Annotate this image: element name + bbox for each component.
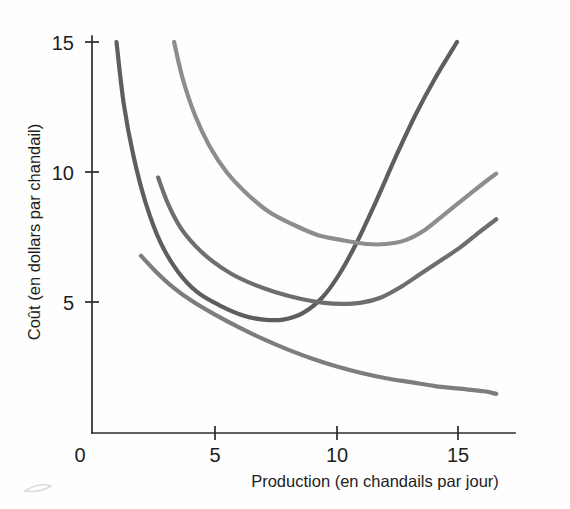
curves-layer <box>117 42 497 394</box>
x-tick-label-10: 10 <box>326 444 348 466</box>
y-axis-title: Coût (en dollars par chandail) <box>25 124 43 340</box>
curve-average-total-cost <box>174 42 496 245</box>
chart-canvas: 15 10 5 0 5 10 15 Production (en chandai… <box>0 0 570 509</box>
y-tick-label-15: 15 <box>52 32 74 54</box>
y-axis-tick-labels: 15 10 5 <box>52 32 74 314</box>
curve-average-variable-cost <box>158 178 496 304</box>
scan-artifact-mark <box>25 485 51 492</box>
y-tick-label-10: 10 <box>52 162 74 184</box>
curve-average-fixed-cost <box>141 256 496 394</box>
curve-marginal-cost <box>117 42 458 320</box>
x-axis-title: Production (en chandails par jour) <box>251 472 499 490</box>
x-tick-label-5: 5 <box>209 444 220 466</box>
y-tick-label-5: 5 <box>63 292 74 314</box>
x-axis-tick-labels: 0 5 10 15 <box>74 444 469 466</box>
x-tick-label-0: 0 <box>74 444 85 466</box>
cost-curves-figure: 15 10 5 0 5 10 15 Production (en chandai… <box>0 0 570 509</box>
x-tick-label-15: 15 <box>447 444 469 466</box>
